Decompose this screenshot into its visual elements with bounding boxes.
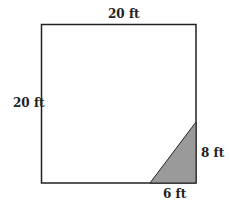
left-side-label: 20 ft (13, 96, 45, 110)
triangle-height-label: 8 ft (201, 146, 224, 160)
triangle-base-label: 6 ft (163, 187, 186, 201)
top-side-label: 20 ft (108, 7, 140, 21)
